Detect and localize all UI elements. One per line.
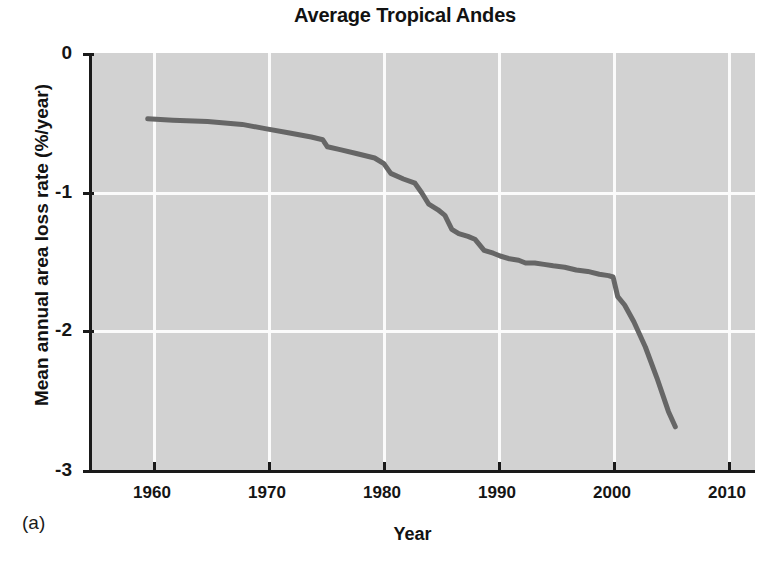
tick-x-1990: [498, 462, 501, 473]
xticklabel-2010: 2010: [708, 483, 746, 503]
tick-x-2000: [613, 462, 616, 473]
tick-y-0: [83, 53, 94, 56]
tick-y-minus1: [83, 192, 94, 195]
tick-y-minus3: [83, 470, 94, 473]
gridline-x-1960: [153, 53, 156, 470]
gridline-y-minus1: [92, 192, 755, 195]
gridline-x-2000: [613, 53, 616, 470]
tick-y-minus2: [83, 330, 94, 333]
xticklabel-1990: 1990: [478, 483, 516, 503]
xticklabel-1970: 1970: [248, 483, 286, 503]
gridline-x-1970: [268, 53, 271, 470]
axis-label-y: Mean annual area loss rate (%/year): [31, 35, 53, 455]
axis-label-x: Year: [0, 524, 770, 545]
gridline-x-1990: [498, 53, 501, 470]
gridline-y-minus2: [92, 330, 755, 333]
panel-label: (a): [22, 512, 45, 534]
plot-area: [89, 53, 755, 473]
yticklabel-minus3: -3: [36, 459, 72, 481]
tick-x-2010: [728, 462, 731, 473]
gridline-x-2010: [728, 53, 731, 470]
figure-panel: Average Tropical Andes 1960 1970 1980 19…: [0, 0, 770, 562]
chart-title: Average Tropical Andes: [0, 4, 770, 27]
tick-x-1980: [383, 462, 386, 473]
tick-x-1970: [268, 462, 271, 473]
xticklabel-1960: 1960: [133, 483, 171, 503]
xticklabel-2000: 2000: [593, 483, 631, 503]
gridline-x-1980: [383, 53, 386, 470]
xticklabel-1980: 1980: [363, 483, 401, 503]
tick-x-1960: [153, 462, 156, 473]
